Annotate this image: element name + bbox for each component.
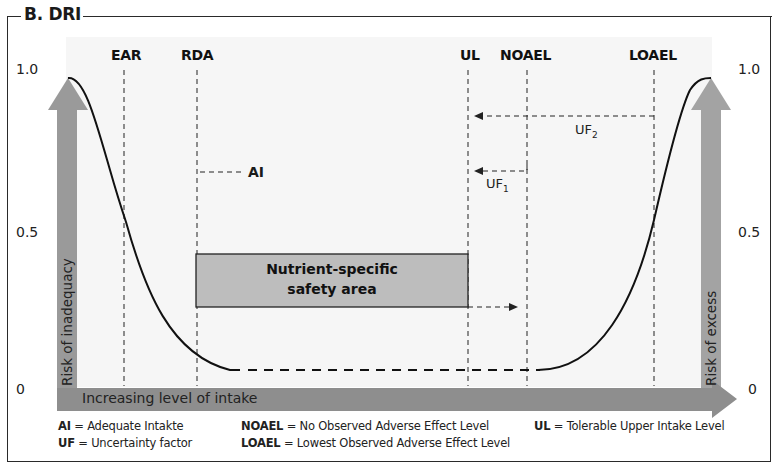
risk-inadequacy-label: Risk of inadequacy (59, 258, 75, 386)
legend-item-uf: UF = Uncertainty factor (58, 435, 192, 452)
safety-area-label: Nutrient-specific safety area (196, 259, 468, 299)
left-tick-05: 0.5 (16, 224, 38, 240)
ai-label: AI (248, 164, 264, 180)
inadequacy-curve (68, 78, 240, 370)
uf1-label: UF1 (486, 176, 509, 194)
legend-col-3: UL = Tolerable Upper Intake Level (534, 418, 724, 435)
right-tick-0: 0 (748, 381, 757, 397)
legend-col-1: AI = Adequate Intakte UF = Uncertainty f… (58, 418, 192, 452)
left-tick-1: 1.0 (16, 61, 38, 77)
left-tick-0: 0 (16, 381, 25, 397)
legend-item-ul: UL = Tolerable Upper Intake Level (534, 418, 724, 435)
ul-label: UL (460, 47, 480, 63)
safety-area-line2: safety area (196, 279, 468, 299)
ear-label: EAR (111, 47, 141, 63)
legend-item-ai: AI = Adequate Intakte (58, 418, 192, 435)
right-tick-1: 1.0 (738, 61, 760, 77)
legend-item-loael: LOAEL = Lowest Observed Adverse Effect L… (241, 435, 510, 452)
safety-extension-arrowhead (509, 303, 518, 311)
noael-label: NOAEL (500, 47, 551, 63)
legend-item-noael: NOAEL = No Observed Adverse Effect Level (241, 418, 510, 435)
legend-col-2: NOAEL = No Observed Adverse Effect Level… (241, 418, 510, 452)
uf1-arrowhead (474, 167, 483, 175)
uf2-arrowhead (474, 112, 483, 120)
excess-curve (538, 78, 711, 370)
right-tick-05: 0.5 (738, 224, 760, 240)
loael-label: LOAEL (629, 47, 677, 63)
safety-area-line1: Nutrient-specific (196, 259, 468, 279)
risk-excess-label: Risk of excess (703, 291, 719, 386)
rda-label: RDA (181, 47, 213, 63)
uf2-label: UF2 (575, 122, 598, 140)
intake-axis-label: Increasing level of intake (82, 390, 257, 406)
